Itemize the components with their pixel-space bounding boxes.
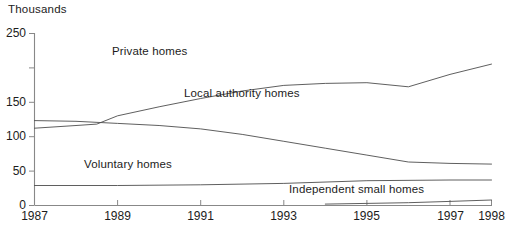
x-tick-label-1989: 1989	[95, 209, 140, 223]
y-tick-label-250: 250	[0, 26, 26, 40]
series-label-independent-small-homes: Independent small homes	[289, 183, 424, 195]
series-label-local-authority-homes: Local authority homes	[184, 87, 300, 99]
x-tick-label-1991: 1991	[178, 209, 223, 223]
x-tick-label-1995: 1995	[344, 209, 389, 223]
y-tick-label-150: 150	[0, 95, 26, 109]
x-tick-label-1998: 1998	[469, 209, 510, 223]
axes-group	[29, 33, 492, 206]
x-tick-label-1987: 1987	[12, 209, 57, 223]
y-tick-marks	[29, 34, 34, 206]
x-tick-label-1993: 1993	[261, 209, 306, 223]
series-label-voluntary-homes: Voluntary homes	[84, 158, 172, 170]
x-tick-label-1997: 1997	[428, 209, 473, 223]
y-tick-label-50: 50	[0, 164, 26, 178]
y-tick-label-100: 100	[0, 129, 26, 143]
series-line-independent-small-homes	[325, 200, 491, 204]
series-label-private-homes: Private homes	[112, 45, 187, 57]
